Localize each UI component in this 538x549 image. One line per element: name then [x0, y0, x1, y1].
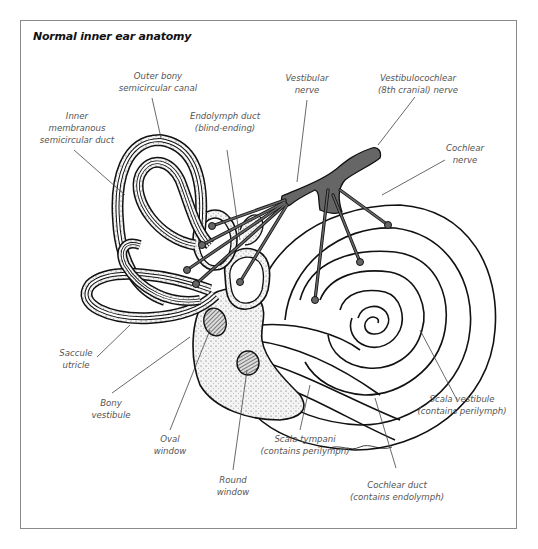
label-round-window: Round window — [217, 474, 250, 498]
round-window-shape — [237, 351, 259, 375]
label-scala-vestibule: Scala vestibule (contains perilymph) — [417, 393, 506, 417]
label-oval-window: Oval window — [154, 433, 187, 457]
label-inner-membranous-duct: Inner membranous semicircular duct — [40, 110, 114, 146]
vestibulocochlear-nerve-shape — [282, 148, 381, 214]
label-endolymph-duct: Endolymph duct (blind-ending) — [190, 110, 260, 134]
semicircular-canals — [86, 140, 215, 318]
label-scala-tympani: Scala tympani (contains perilymph) — [260, 433, 349, 457]
label-saccule-utricle: Saccule utricle — [59, 347, 92, 371]
label-vestibulocochlear-nerve: Vestibulocochlear (8th cranial) nerve — [378, 72, 458, 96]
label-cochlear-duct: Cochlear duct (contains endolymph) — [350, 479, 444, 503]
label-outer-bony-canal: Outer bony semicircular canal — [119, 70, 197, 94]
label-vestibular-nerve: Vestibular nerve — [286, 72, 329, 96]
label-bony-vestibule: Bony vestibule — [91, 397, 130, 421]
label-cochlear-nerve: Cochlear nerve — [446, 142, 484, 166]
